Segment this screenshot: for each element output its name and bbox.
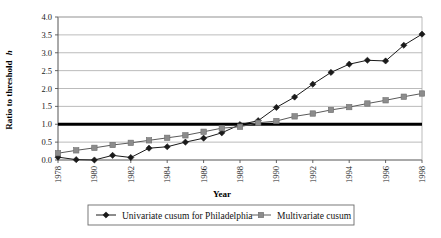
square-marker xyxy=(128,140,133,145)
x-tick-label: 1982 xyxy=(126,166,136,183)
square-marker xyxy=(274,118,279,123)
diamond-marker xyxy=(110,152,116,158)
x-tick-label: 1978 xyxy=(53,166,63,183)
square-marker xyxy=(383,98,388,103)
x-tick-label: 1992 xyxy=(308,166,318,183)
square-marker xyxy=(328,107,333,112)
diamond-marker xyxy=(346,61,352,67)
square-marker xyxy=(146,138,151,143)
x-tick-label: 1986 xyxy=(199,166,209,183)
y-tick-label: 1.0 xyxy=(41,119,52,129)
diamond-marker xyxy=(201,135,207,141)
diamond-marker xyxy=(310,81,316,87)
square-marker xyxy=(92,145,97,150)
square-marker xyxy=(183,133,188,138)
square-marker xyxy=(219,125,224,130)
diamond-marker xyxy=(73,157,79,163)
y-tick-label: 4.0 xyxy=(41,12,52,22)
line-chart: 0.00.51.01.52.02.53.03.54.0 197819801982… xyxy=(0,0,441,238)
y-axis-title-italic-h: h xyxy=(4,50,14,55)
square-marker xyxy=(365,101,370,106)
square-marker xyxy=(237,124,242,129)
y-tick-label: 0.0 xyxy=(41,155,52,165)
legend-label: Multivariate cusum xyxy=(277,211,352,221)
diamond-marker xyxy=(364,57,370,63)
svg-text:Ratio to threshold h: Ratio to threshold h xyxy=(4,50,14,130)
diamond-marker xyxy=(182,139,188,145)
square-marker xyxy=(201,129,206,134)
y-tick-label: 1.5 xyxy=(41,101,52,111)
chart-legend: Univariate cusum for PhiladelphiaMultiva… xyxy=(88,205,354,225)
diamond-marker xyxy=(419,31,425,37)
x-tick-label: 1994 xyxy=(344,165,354,183)
square-marker xyxy=(256,120,261,125)
x-tick-label: 1990 xyxy=(271,166,281,183)
square-marker xyxy=(292,114,297,119)
square-marker xyxy=(165,135,170,140)
square-marker xyxy=(419,91,424,96)
y-tick-label: 2.5 xyxy=(41,66,52,76)
x-tick-label: 1984 xyxy=(162,165,172,183)
diamond-marker xyxy=(91,157,97,163)
x-axis-tick-labels: 1978198019821984198619881990199219941996… xyxy=(53,165,427,183)
legend-label: Univariate cusum for Philadelphia xyxy=(122,211,253,221)
y-axis-title: Ratio to threshold h xyxy=(4,50,14,130)
diamond-marker xyxy=(164,144,170,150)
diamond-marker xyxy=(292,94,298,100)
square-marker xyxy=(347,104,352,109)
y-tick-label: 0.5 xyxy=(41,137,52,147)
diamond-marker xyxy=(146,145,152,151)
data-series xyxy=(55,31,425,163)
x-tick-label: 1988 xyxy=(235,166,245,183)
square-marker xyxy=(401,94,406,99)
x-tick-label: 1998 xyxy=(417,166,427,183)
square-marker xyxy=(110,142,115,147)
x-tick-label: 1980 xyxy=(89,166,99,183)
legend-square-marker xyxy=(258,212,263,217)
chart-figure: 0.00.51.01.52.02.53.03.54.0 197819801982… xyxy=(0,0,441,238)
square-marker xyxy=(55,151,60,156)
x-axis-title: Year xyxy=(213,189,231,199)
y-tick-label: 3.0 xyxy=(41,48,52,58)
y-tick-label: 2.0 xyxy=(41,84,52,94)
y-axis-title-text: Ratio to threshold xyxy=(4,60,14,129)
x-tick-label: 1996 xyxy=(381,166,391,183)
y-tick-label: 3.5 xyxy=(41,30,52,40)
square-marker xyxy=(74,148,79,153)
y-axis-tick-labels: 0.00.51.01.52.02.53.03.54.0 xyxy=(41,12,52,165)
square-marker xyxy=(310,111,315,116)
